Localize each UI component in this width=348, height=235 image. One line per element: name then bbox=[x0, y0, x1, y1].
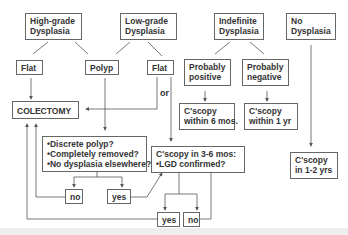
cscopy-within-6-mos-box: C'scopy within 6 mos. bbox=[179, 103, 235, 130]
polyp-box: Polyp bbox=[85, 60, 119, 75]
high-grade-dysplasia-box: High-grade Dysplasia bbox=[25, 13, 82, 40]
polyp-no-box: no bbox=[65, 189, 83, 204]
probably-negative-box: Probably negative bbox=[242, 59, 289, 86]
colectomy-box: COLECTOMY bbox=[12, 101, 79, 119]
or-label: or bbox=[160, 88, 169, 98]
cscopy-within-1-yr-box: C'scopy within 1 yr bbox=[244, 103, 298, 130]
lgd-no-box: no bbox=[183, 212, 200, 227]
flowchart-diagram: High-grade Dysplasia Low-grade Dysplasia… bbox=[0, 0, 348, 235]
cscopy-1-2-yrs-box: C'scopy in 1-2 yrs bbox=[290, 152, 338, 179]
lg-flat-box: Flat bbox=[147, 60, 174, 75]
no-dysplasia-box: No Dysplasia bbox=[286, 13, 336, 40]
polyp-yes-box: yes bbox=[107, 189, 131, 204]
polyp-questions-box: •Discrete polyp? •Completely removed? •N… bbox=[42, 136, 147, 172]
probably-positive-box: Probably positive bbox=[184, 59, 231, 86]
lgd-yes-box: yes bbox=[157, 212, 180, 227]
low-grade-dysplasia-box: Low-grade Dysplasia bbox=[120, 13, 177, 40]
hg-flat-box: Flat bbox=[16, 60, 43, 75]
cscopy-3-6-mos-box: C'scopy in 3-6 mos: •LGD confirmed? bbox=[151, 146, 245, 173]
indefinite-dysplasia-box: Indefinite Dysplasia bbox=[214, 13, 264, 40]
footer-strip bbox=[0, 228, 348, 235]
